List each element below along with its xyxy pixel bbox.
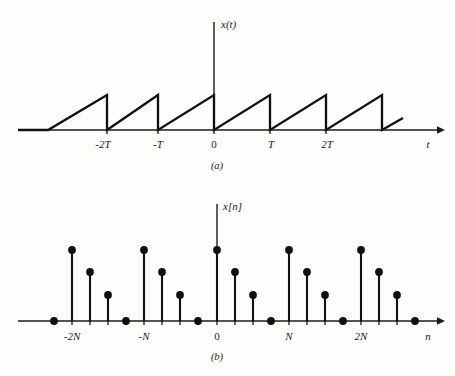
panel-a-tick-label-minus-2T: -2T [95, 138, 111, 150]
panel-b-tick-label-minus-N: -N [139, 330, 151, 342]
panel-a-tick-label-zero: 0 [211, 138, 217, 150]
panel-b-tick-label-minus-2N: -2N [64, 330, 81, 342]
panel-a-tick-label-minus-T: -T [153, 138, 164, 150]
panel-b-labels: x[n] -2N -N 0 N 2N n (b) [0, 190, 455, 376]
panel-b-x-axis-label: n [425, 330, 431, 342]
panel-a-tick-label-2T: 2T [321, 138, 334, 150]
panel-b-tick-label-2N: 2N [355, 330, 369, 342]
panel-a-signal-label: x(t) [220, 18, 237, 31]
panel-b-tick-label-N: N [284, 330, 293, 342]
panel-a-tick-label-T: T [268, 138, 275, 150]
panel-b-signal-label: x[n] [222, 200, 242, 212]
panel-a-x-axis-label: t [426, 138, 430, 150]
figure-root: x(t) -2T -T 0 T 2T t (a) [0, 0, 455, 376]
panel-a-labels: x(t) -2T -T 0 T 2T t (a) [0, 0, 455, 190]
panel-a-caption: (a) [211, 160, 224, 172]
panel-b-tick-label-zero: 0 [214, 330, 220, 342]
panel-b-caption: (b) [211, 351, 224, 363]
